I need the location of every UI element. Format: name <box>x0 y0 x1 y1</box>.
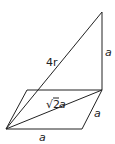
label-space-diagonal: 4r <box>46 56 58 69</box>
svg-text:a: a <box>59 98 66 111</box>
geometry-diagram: a 4r √ 2 a a a <box>0 0 115 144</box>
space-diagonal <box>6 12 102 129</box>
label-right-edge: a <box>94 107 101 120</box>
label-bottom-edge: a <box>39 131 46 144</box>
label-vertical-edge: a <box>105 46 112 59</box>
label-base-diagonal: √ 2 a <box>46 98 66 111</box>
